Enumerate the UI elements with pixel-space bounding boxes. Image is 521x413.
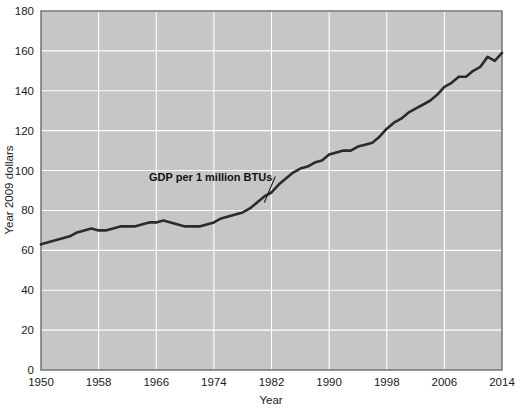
series-annotation-label: GDP per 1 million BTUs (149, 171, 272, 183)
y-tick-label: 160 (15, 45, 34, 57)
y-tick-label: 40 (21, 284, 34, 296)
y-tick-label: 0 (28, 364, 34, 376)
y-tick-label: 20 (21, 324, 34, 336)
x-tick-label: 1966 (143, 376, 169, 388)
y-tick-label: 60 (21, 244, 34, 256)
y-tick-label: 180 (15, 5, 34, 17)
x-tick-label: 1998 (374, 376, 400, 388)
y-axis-title: Year 2009 dollars (3, 145, 15, 234)
x-tick-label: 1958 (86, 376, 112, 388)
x-tick-label: 2014 (489, 376, 515, 388)
chart-figure: 020406080100120140160180 195019581966197… (0, 0, 521, 413)
x-tick-label: 2006 (432, 376, 458, 388)
y-tick-label: 120 (15, 125, 34, 137)
y-tick-label: 140 (15, 85, 34, 97)
x-tick-label: 1982 (259, 376, 285, 388)
line-chart: 020406080100120140160180 195019581966197… (0, 0, 521, 413)
x-tick-labels: 195019581966197419821990199820062014 (28, 376, 515, 388)
x-axis-title: Year (259, 394, 282, 406)
y-tick-label: 100 (15, 165, 34, 177)
x-tick-label: 1990 (316, 376, 342, 388)
x-tick-label: 1950 (28, 376, 54, 388)
y-tick-label: 80 (21, 204, 34, 216)
x-tick-label: 1974 (201, 376, 227, 388)
